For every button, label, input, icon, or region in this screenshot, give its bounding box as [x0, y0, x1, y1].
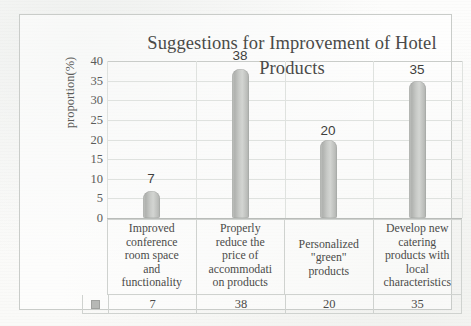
category-label-table: Improved conference room space and funct…: [107, 219, 462, 295]
category-text-1: Improved conference room space and funct…: [122, 222, 182, 290]
legend-cell[interactable]: [83, 295, 109, 313]
category-line: and: [122, 263, 182, 277]
category-text-2: Properly reduce the price of accommodati…: [208, 222, 272, 290]
y-axis-tick-labels: 40 35 30 25 20 15 10 5 0: [70, 61, 103, 218]
category-line: catering: [384, 236, 451, 250]
category-cell-3[interactable]: Personalized "green" products: [285, 220, 374, 294]
category-divider-3: [373, 61, 374, 218]
category-line: reduce the: [208, 236, 272, 250]
bar-label-1: 7: [128, 171, 174, 186]
category-text-4: Develop new catering products with local…: [384, 222, 451, 290]
category-line: products: [299, 265, 359, 279]
category-line: room space: [122, 249, 182, 263]
bar-develop-catering-products[interactable]: [409, 81, 426, 218]
category-line: functionality: [122, 276, 182, 290]
category-divider-2: [285, 61, 286, 218]
y-tick-10: 10: [73, 171, 103, 186]
y-tick-30: 30: [73, 93, 103, 108]
bar-label-2: 38: [217, 48, 263, 63]
bar-reduce-accommodation-price[interactable]: [232, 69, 249, 218]
category-line: on products: [208, 276, 272, 290]
category-divider-0: [107, 61, 108, 218]
value-cell-3: 20: [286, 295, 374, 313]
category-line: local: [384, 263, 451, 277]
category-line: Develop new: [384, 222, 451, 236]
chart-frame: Suggestions for Improvement of Hotel Pro…: [19, 14, 452, 310]
y-tick-15: 15: [73, 152, 103, 167]
category-divider-4: [462, 61, 463, 218]
y-tick-0: 0: [73, 211, 103, 226]
bar-improved-conference-room[interactable]: [143, 191, 160, 218]
category-line: characteristics: [384, 276, 451, 290]
y-tick-20: 20: [73, 132, 103, 147]
bar-personalized-green-products[interactable]: [320, 140, 337, 219]
y-tick-35: 35: [73, 73, 103, 88]
chart-title-line-1: Suggestions for Improvement of Hotel: [132, 31, 452, 56]
y-tick-40: 40: [73, 54, 103, 69]
value-cell-2: 38: [197, 295, 285, 313]
y-tick-5: 5: [73, 191, 103, 206]
category-line: Personalized: [299, 238, 359, 252]
category-line: Improved: [122, 222, 182, 236]
category-divider-1: [196, 61, 197, 218]
category-line: price of: [208, 249, 272, 263]
y-tick-25: 25: [73, 112, 103, 127]
category-cell-2[interactable]: Properly reduce the price of accommodati…: [197, 220, 286, 294]
category-line: conference: [122, 236, 182, 250]
category-text-3: Personalized "green" products: [299, 238, 359, 279]
category-line: accommodati: [208, 263, 272, 277]
category-line: products with: [384, 249, 451, 263]
category-line: "green": [299, 251, 359, 265]
plot-area: 7 38 20 35: [107, 61, 462, 218]
value-cell-4: 35: [374, 295, 461, 313]
category-cell-4[interactable]: Develop new catering products with local…: [374, 220, 462, 294]
series-marker-square-icon: [91, 300, 100, 309]
category-cell-1[interactable]: Improved conference room space and funct…: [108, 220, 197, 294]
bar-label-3: 20: [305, 123, 351, 138]
value-cell-1: 7: [109, 295, 197, 313]
bar-label-4: 35: [394, 62, 440, 77]
data-value-table: 7 38 20 35: [82, 295, 462, 314]
category-line: Properly: [208, 222, 272, 236]
